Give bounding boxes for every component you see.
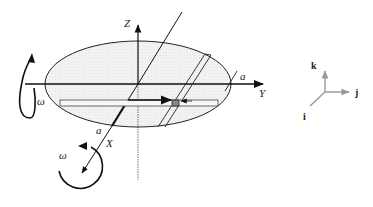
k-label: k (311, 60, 317, 71)
unit-vector-triad (310, 71, 349, 106)
slider-block (172, 100, 179, 106)
omega-label-left: ω (37, 95, 45, 107)
omega-label-bottom: ω (59, 149, 67, 161)
a-label-right: a (240, 70, 246, 82)
j-label: j (354, 87, 358, 98)
a-label-lower: a (96, 124, 102, 136)
rotation-arrow-z (20, 53, 36, 118)
x-axis-label: X (105, 137, 114, 149)
z-axis-label: Z (124, 17, 131, 29)
i-label: i (303, 111, 306, 122)
guide-bar (60, 100, 218, 106)
y-axis-label: Y (259, 87, 267, 99)
diagram-canvas: Z Y X a a ω ω k j i (0, 0, 373, 207)
